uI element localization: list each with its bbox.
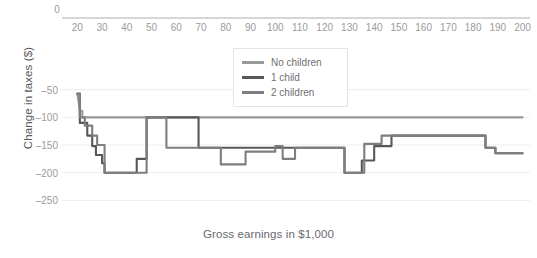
x-axis-title: Gross earnings in $1,000 <box>0 228 537 240</box>
legend-item-no-children: No children <box>242 55 339 70</box>
legend-swatch-no-children <box>242 61 264 64</box>
legend-swatch-1-child <box>242 76 264 79</box>
plot-area <box>0 0 537 258</box>
legend-label-2-children: 2 children <box>271 87 314 98</box>
legend-item-2-children: 2 children <box>242 85 339 100</box>
legend-label-1-child: 1 child <box>271 72 300 83</box>
legend-swatch-2-children <box>242 91 264 94</box>
tax-change-line-chart: Change in taxes ($) –50–100–150–200–250 … <box>0 0 537 258</box>
legend-item-1-child: 1 child <box>242 70 339 85</box>
chart-legend: No children 1 child 2 children <box>233 48 348 107</box>
legend-label-no-children: No children <box>271 57 322 68</box>
